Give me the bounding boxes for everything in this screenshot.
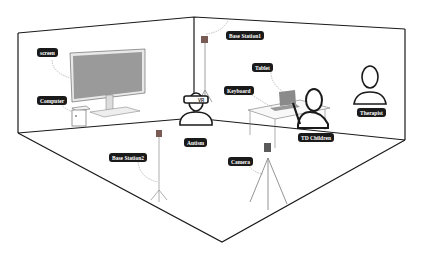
back-wall-top-edge: [18, 17, 405, 33]
vr-headset-icon: VR: [198, 98, 205, 103]
floor-edges: [18, 133, 405, 242]
label-td-children: TD Children: [298, 133, 334, 142]
label-autism: Autism: [184, 138, 207, 147]
label-computer: Computer: [37, 96, 67, 105]
base-station2-tripod: [151, 130, 167, 202]
autism-figure: [180, 93, 212, 125]
label-keyboard: Keyboard: [224, 86, 254, 95]
room-diagram: VR: [0, 0, 433, 254]
computer-tower: [72, 106, 90, 126]
label-camera: Camera: [228, 157, 253, 166]
label-base-station2: Base Station2: [109, 153, 147, 162]
label-therapist: Therapist: [357, 108, 386, 117]
room-outline: [18, 17, 405, 242]
therapist-figure: [354, 66, 386, 104]
label-base-station1: Base Station1: [226, 31, 264, 40]
camera-tripod: [250, 143, 287, 210]
label-tablet: Tablet: [252, 63, 273, 72]
base-station1-tripod: [198, 36, 212, 103]
label-screen: screen: [37, 48, 58, 57]
floor-back-left: [18, 118, 194, 133]
